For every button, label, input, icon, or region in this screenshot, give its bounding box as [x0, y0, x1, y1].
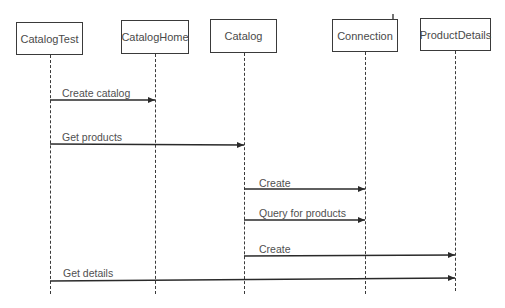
message-label-create-connection: Create [259, 177, 291, 189]
message-label-get-details: Get details [63, 267, 113, 279]
message-label-get-products: Get products [62, 131, 122, 143]
message-arrows [0, 0, 505, 308]
message-label-query-for-products: Query for products [259, 207, 346, 219]
arrow-create-productdetails [244, 255, 455, 256]
arrow-get-products [50, 144, 244, 145]
message-label-create-catalog: Create catalog [62, 87, 130, 99]
message-label-create-productdetails: Create [259, 243, 291, 255]
sequence-diagram: CatalogTest CatalogHome Catalog Connecti… [0, 0, 505, 308]
